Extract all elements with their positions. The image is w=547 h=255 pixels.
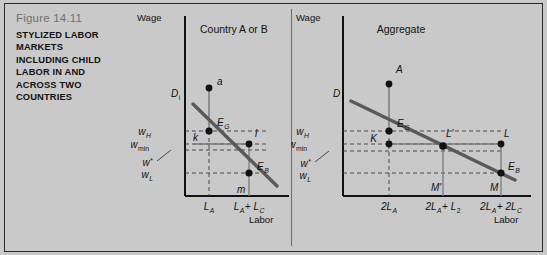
ytick-label-wH: wH xyxy=(296,126,309,139)
point-EG xyxy=(205,127,212,134)
figure-page: Figure 14.11 STYLIZED LABOR MARKETS INCL… xyxy=(0,0,547,255)
point-EG xyxy=(385,127,392,134)
point-label-Lprime: L' xyxy=(446,128,455,139)
figure-title-line-3: INCLUDING CHILD xyxy=(16,54,128,66)
xtick-label-LA: LA xyxy=(204,201,215,214)
wstar-pointer xyxy=(157,150,171,161)
xtick-label-2LA: 2LA xyxy=(380,201,398,214)
point-label-K: K xyxy=(370,133,378,144)
point-label-l: l xyxy=(255,128,258,139)
ytick-label-wH: wH xyxy=(138,126,151,139)
ytick-label-wstar: w* xyxy=(301,158,312,169)
ytick-label-wL: wL xyxy=(141,169,153,182)
point-EB xyxy=(497,169,504,176)
figure-title-line-4: LABOR IN AND xyxy=(16,66,128,78)
y-axis-label: Wage xyxy=(296,12,320,23)
x-axis-label: Labor xyxy=(249,214,273,225)
point-label-Mprime: M' xyxy=(431,182,442,193)
point-label-A: A xyxy=(395,64,403,75)
point-a xyxy=(206,85,213,92)
curve-label-D: D xyxy=(333,88,340,99)
ytick-label-wmin: wmin xyxy=(131,139,149,152)
ytick-label-wstar: w* xyxy=(143,157,154,168)
figure-title-line-2: MARKETS xyxy=(16,41,128,53)
figure-title: STYLIZED LABOR MARKETS INCLUDING CHILD L… xyxy=(16,29,128,103)
chart-panel-country-a-or-b: Country A or B Wage Labor Di a EG k l EB… xyxy=(131,0,291,255)
point-K xyxy=(386,141,393,148)
point-label-m: m xyxy=(237,184,245,195)
figure-number: Figure 14.11 xyxy=(16,12,128,24)
point-L xyxy=(498,141,505,148)
ytick-label-wmin: wmin xyxy=(291,139,307,152)
point-A xyxy=(386,81,393,88)
point-label-EG: EG xyxy=(217,117,229,130)
point-label-a: a xyxy=(217,76,223,87)
point-label-k: k xyxy=(193,132,199,143)
point-label-EB: EB xyxy=(508,161,520,174)
point-l xyxy=(246,141,253,148)
figure-caption: Figure 14.11 STYLIZED LABOR MARKETS INCL… xyxy=(16,12,128,103)
y-axis-label: Wage xyxy=(137,12,161,23)
point-EB xyxy=(245,169,252,176)
chart-title: Country A or B xyxy=(200,23,268,35)
xtick-label-LA-plus-LC: LA+ LC xyxy=(234,201,265,214)
x-axis-label: Labor xyxy=(494,214,518,225)
point-label-M: M xyxy=(490,182,499,193)
ytick-label-wL: wL xyxy=(299,170,311,183)
figure-title-line-1: STYLIZED LABOR xyxy=(16,29,128,41)
figure-title-line-6: COUNTRIES xyxy=(16,91,128,103)
xtick-label-2LA-plus-L2: 2LA+ L2 xyxy=(424,201,460,214)
curve-label-D: Di xyxy=(171,88,181,101)
wstar-pointer xyxy=(315,151,329,162)
figure-title-line-5: ACROSS TWO xyxy=(16,79,128,91)
chart-svg-country-a-or-b: Country A or B Wage Labor Di a EG k l EB… xyxy=(131,0,291,255)
point-label-EG: EG xyxy=(397,118,409,131)
point-label-EB: EB xyxy=(257,161,269,174)
chart-panel-aggregate: Aggregate Wage Labor D A EG K L' L EB M'… xyxy=(291,0,543,255)
chart-title: Aggregate xyxy=(377,23,426,35)
xtick-label-2LA-plus-2LC: 2LA+ 2LC xyxy=(479,201,522,214)
point-Lprime xyxy=(439,142,447,150)
point-label-L: L xyxy=(504,128,510,139)
demand-curve-Di xyxy=(193,104,277,186)
chart-svg-aggregate: Aggregate Wage Labor D A EG K L' L EB M'… xyxy=(291,0,543,255)
